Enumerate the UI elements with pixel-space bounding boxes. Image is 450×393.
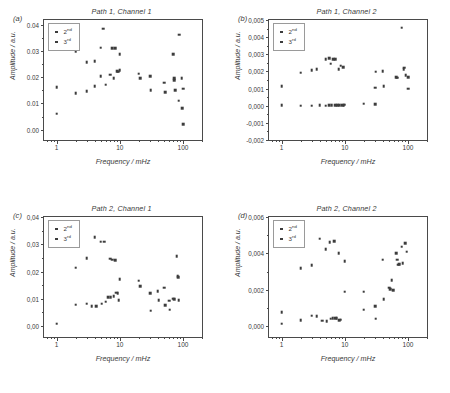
x-tick-minor bbox=[114, 337, 115, 339]
x-tick-minor bbox=[320, 140, 321, 142]
x-tick-minor bbox=[169, 337, 170, 339]
x-tick-minor bbox=[114, 140, 115, 142]
data-point bbox=[382, 70, 385, 73]
x-tick-minor bbox=[54, 337, 55, 339]
data-point bbox=[164, 304, 167, 307]
y-tick-label: -0,002 bbox=[246, 137, 264, 144]
y-tick bbox=[41, 130, 45, 131]
data-point bbox=[86, 90, 89, 93]
y-tick-label: 0,02 bbox=[27, 268, 39, 275]
data-point bbox=[74, 266, 77, 269]
data-point bbox=[169, 308, 172, 311]
data-point bbox=[405, 250, 408, 253]
y-tick bbox=[41, 326, 45, 327]
data-point bbox=[316, 68, 319, 71]
data-point bbox=[111, 47, 114, 50]
y-tick bbox=[41, 299, 45, 300]
x-tick-minor bbox=[139, 337, 140, 339]
data-point bbox=[100, 75, 103, 78]
x-tick bbox=[183, 140, 184, 144]
data-point bbox=[74, 92, 77, 95]
data-point bbox=[374, 103, 377, 106]
data-point bbox=[182, 123, 185, 126]
x-tick-minor bbox=[150, 337, 151, 339]
panel-a: (a) Path 1, Channel 1 Amplitude / a.u. 0… bbox=[0, 0, 225, 196]
data-point bbox=[401, 26, 404, 29]
y-tick-minor bbox=[267, 29, 269, 30]
data-point bbox=[342, 66, 345, 69]
panel-c: (c) Path 2, Channel 1 Amplitude / a.u. 0… bbox=[0, 197, 225, 393]
x-tick bbox=[120, 140, 121, 144]
y-tick-minor bbox=[42, 312, 44, 313]
data-point bbox=[299, 72, 302, 75]
y-tick bbox=[266, 71, 270, 72]
x-tick-minor bbox=[158, 140, 159, 142]
panel-a-y-axis-label: Amplitude / a.u. bbox=[9, 31, 16, 80]
data-point bbox=[363, 290, 366, 293]
data-point bbox=[407, 76, 410, 79]
legend-marker-second-icon bbox=[55, 228, 58, 231]
data-point bbox=[382, 298, 385, 301]
x-tick-label: 1 bbox=[280, 144, 284, 151]
x-tick bbox=[183, 337, 184, 341]
x-tick-minor bbox=[279, 337, 280, 339]
y-tick-minor bbox=[42, 258, 44, 259]
data-point bbox=[280, 322, 283, 325]
x-tick-minor bbox=[276, 140, 277, 142]
y-tick bbox=[41, 103, 45, 104]
data-point bbox=[178, 33, 181, 36]
x-tick-minor bbox=[87, 140, 88, 142]
legend-entry-third: 3rd bbox=[53, 37, 72, 47]
y-tick bbox=[266, 37, 270, 38]
x-tick-minor bbox=[326, 140, 327, 142]
x-tick-minor bbox=[110, 140, 111, 142]
panel-b-y-axis-label: Amplitude / a.u. bbox=[234, 31, 241, 80]
data-point bbox=[334, 58, 337, 61]
x-tick-minor bbox=[169, 140, 170, 142]
x-tick-minor bbox=[312, 140, 313, 142]
x-tick-minor bbox=[150, 140, 151, 142]
x-tick-minor bbox=[301, 140, 302, 142]
data-point bbox=[318, 237, 321, 240]
legend-entry-third: 3rd bbox=[53, 234, 72, 244]
y-tick-minor bbox=[267, 235, 269, 236]
x-tick-label: 100 bbox=[403, 341, 414, 348]
x-tick bbox=[345, 337, 346, 341]
y-tick-minor bbox=[267, 308, 269, 309]
y-tick-minor bbox=[42, 117, 44, 118]
y-tick-label: 0,01 bbox=[27, 295, 39, 302]
data-point bbox=[119, 278, 122, 281]
x-tick-minor bbox=[272, 140, 273, 142]
data-point bbox=[344, 290, 347, 293]
data-point bbox=[401, 245, 404, 248]
data-point bbox=[404, 242, 407, 245]
panel-b-x-axis-label: Frequency / mHz bbox=[268, 157, 428, 166]
data-point bbox=[390, 279, 393, 282]
legend-label-third: 3rd bbox=[64, 37, 71, 47]
x-tick-minor bbox=[331, 140, 332, 142]
data-point bbox=[326, 320, 329, 323]
y-tick bbox=[266, 217, 270, 218]
data-point bbox=[138, 72, 141, 75]
data-point bbox=[116, 292, 119, 295]
y-tick-minor bbox=[267, 63, 269, 64]
x-tick-minor bbox=[335, 140, 336, 142]
data-point bbox=[86, 61, 89, 64]
x-tick bbox=[408, 140, 409, 144]
legend-entry-second: 2nd bbox=[278, 27, 297, 37]
x-tick-minor bbox=[101, 140, 102, 142]
data-point bbox=[86, 302, 89, 305]
data-point bbox=[157, 290, 160, 293]
data-point bbox=[330, 104, 333, 107]
y-tick-minor bbox=[42, 231, 44, 232]
data-point bbox=[407, 87, 410, 90]
panel-d-x-axis-label: Frequency / mHz bbox=[268, 354, 428, 363]
data-point bbox=[55, 86, 58, 89]
y-tick bbox=[266, 54, 270, 55]
panel-d: (d) Path 2, Channel 2 Amplitude / a.u. 0… bbox=[225, 197, 450, 393]
x-tick-minor bbox=[110, 337, 111, 339]
x-tick-minor bbox=[375, 337, 376, 339]
x-tick bbox=[345, 140, 346, 144]
data-point bbox=[139, 77, 142, 80]
x-tick-minor bbox=[339, 337, 340, 339]
